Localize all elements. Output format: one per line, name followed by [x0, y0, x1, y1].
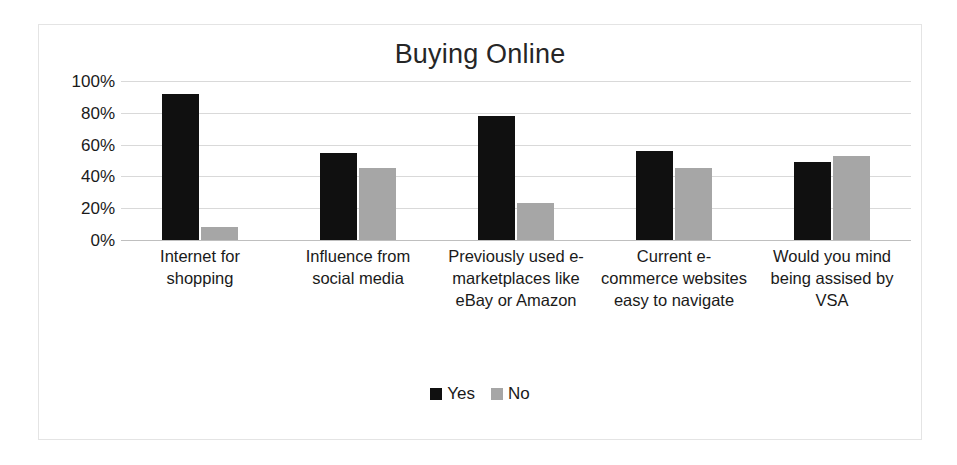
chart-container: Buying Online 100%80%60%40%20%0% Interne… — [38, 24, 922, 440]
y-axis: 100%80%60%40%20%0% — [53, 81, 115, 240]
bar-group — [437, 81, 595, 240]
bar-yes[interactable] — [636, 151, 673, 240]
bar-yes[interactable] — [478, 116, 515, 240]
legend-label: Yes — [447, 385, 475, 402]
bars — [279, 81, 437, 240]
y-axis-tick-label: 0% — [90, 232, 115, 249]
bars — [121, 81, 279, 240]
bar-group — [121, 81, 279, 240]
x-axis-category-label: Previously used e-marketplaces like eBay… — [437, 246, 595, 312]
legend-swatch-icon — [491, 388, 503, 400]
legend-item[interactable]: No — [491, 385, 530, 402]
y-axis-tick-label: 20% — [81, 200, 115, 217]
y-axis-tick-label: 60% — [81, 136, 115, 153]
bar-no[interactable] — [359, 168, 396, 240]
bar-no[interactable] — [833, 156, 870, 240]
bar-groups — [121, 81, 911, 240]
y-axis-tick-label: 40% — [81, 168, 115, 185]
bar-group — [279, 81, 437, 240]
y-axis-tick-label: 80% — [81, 104, 115, 121]
bars — [437, 81, 595, 240]
bar-no[interactable] — [675, 168, 712, 240]
bar-no[interactable] — [517, 203, 554, 240]
legend-label: No — [508, 385, 530, 402]
x-axis-category-label: Would you mind being assised by VSA — [753, 246, 911, 312]
x-axis-category-label: Internet for shopping — [121, 246, 279, 312]
chart-legend: YesNo — [39, 385, 921, 402]
bars — [753, 81, 911, 240]
gridline — [121, 240, 911, 241]
x-axis-category-label: Current e-commerce websites easy to navi… — [595, 246, 753, 312]
legend-swatch-icon — [430, 388, 442, 400]
bar-no[interactable] — [201, 227, 238, 240]
x-axis-category-label: Influence from social media — [279, 246, 437, 312]
bar-group — [753, 81, 911, 240]
bar-yes[interactable] — [794, 162, 831, 240]
y-axis-tick-label: 100% — [72, 73, 115, 90]
bar-yes[interactable] — [320, 153, 357, 240]
x-axis: Internet for shoppingInfluence from soci… — [121, 246, 911, 312]
chart-title: Buying Online — [39, 39, 921, 70]
bar-group — [595, 81, 753, 240]
legend-item[interactable]: Yes — [430, 385, 475, 402]
bar-yes[interactable] — [162, 94, 199, 240]
bars — [595, 81, 753, 240]
